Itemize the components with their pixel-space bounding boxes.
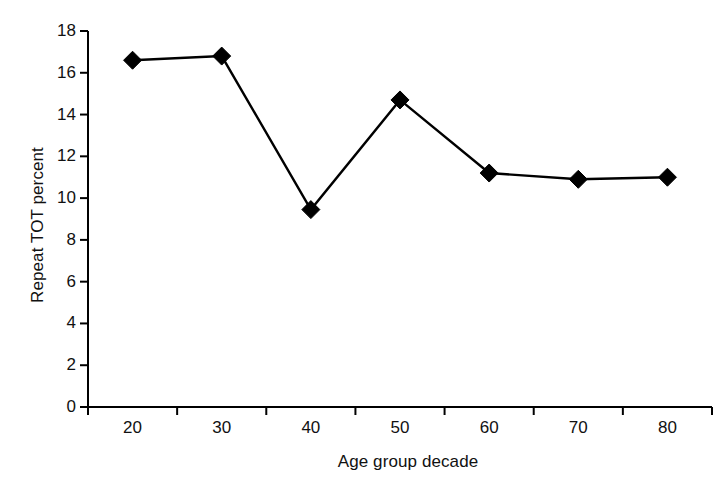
- y-axis-tick-label-text: 4: [30, 313, 76, 333]
- data-series: [124, 47, 677, 219]
- y-axis-tick-label: 8: [30, 230, 76, 250]
- y-axis-tick-label-text: 8: [30, 230, 76, 250]
- x-axis-tick-label: 50: [370, 418, 430, 438]
- y-axis-title: Repeat TOT percent: [28, 110, 48, 340]
- x-axis-tick-label: 20: [103, 418, 163, 438]
- x-axis-tick-label: 30: [192, 418, 252, 438]
- y-axis-tick-label-text: 12: [30, 146, 76, 166]
- data-point-marker: [213, 47, 231, 65]
- y-axis-tick-label: 16: [30, 63, 76, 83]
- y-axis-tick-label: 10: [30, 188, 76, 208]
- data-point-marker: [124, 51, 142, 69]
- y-axis-tick-label: 14: [30, 105, 76, 125]
- x-axis-tick-label: 60: [459, 418, 519, 438]
- y-axis-tick-label: 12: [30, 146, 76, 166]
- line-chart: Repeat TOT percent Age group decade 0246…: [0, 0, 728, 491]
- y-axis-ticks: [80, 31, 88, 407]
- series-line: [133, 56, 668, 210]
- x-axis-ticks: [88, 407, 712, 415]
- x-axis-title: Age group decade: [88, 452, 728, 472]
- y-axis-tick-label: 6: [30, 272, 76, 292]
- axes: [80, 31, 712, 415]
- series-markers: [124, 47, 677, 219]
- x-axis-tick-label: 40: [281, 418, 341, 438]
- y-axis-tick-label: 4: [30, 313, 76, 333]
- y-axis-tick-label-text: 18: [30, 21, 76, 41]
- x-axis-tick-label: 70: [548, 418, 608, 438]
- y-axis-tick-label-text: 2: [30, 355, 76, 375]
- y-axis-tick-label-text: 10: [30, 188, 76, 208]
- y-axis-tick-label-text: 14: [30, 105, 76, 125]
- y-axis-tick-label-text: 6: [30, 272, 76, 292]
- y-axis-tick-label-text: 0: [30, 397, 76, 417]
- data-point-marker: [569, 170, 587, 188]
- data-point-marker: [658, 168, 676, 186]
- y-axis-tick-label: 18: [30, 21, 76, 41]
- x-axis-tick-label: 80: [637, 418, 697, 438]
- y-axis-tick-label: 0: [30, 397, 76, 417]
- y-axis-tick-label: 2: [30, 355, 76, 375]
- y-axis-tick-label-text: 16: [30, 63, 76, 83]
